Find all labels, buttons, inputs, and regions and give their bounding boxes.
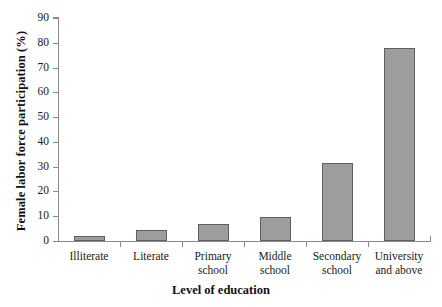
y-axis-tick xyxy=(53,241,58,242)
x-axis-tick xyxy=(306,242,307,247)
y-axis-tick xyxy=(53,68,58,69)
y-axis-line xyxy=(58,17,59,242)
y-axis-tick-label: 30 xyxy=(9,161,49,173)
y-axis-tick xyxy=(53,167,58,168)
bar xyxy=(260,217,291,241)
y-axis-tick-label: 20 xyxy=(9,185,49,197)
y-axis-tick-label: 80 xyxy=(9,37,49,49)
y-axis-tick xyxy=(53,18,58,19)
y-axis-tick-label: 0 xyxy=(9,235,49,247)
y-axis-tick xyxy=(53,142,58,143)
x-axis-tick xyxy=(120,242,121,247)
y-axis-tick xyxy=(53,191,58,192)
category-label-line: University xyxy=(356,250,442,264)
bar xyxy=(136,230,167,241)
y-axis-tick-label: 50 xyxy=(9,111,49,123)
y-axis-tick xyxy=(53,92,58,93)
y-axis-tick xyxy=(53,43,58,44)
x-axis-tick xyxy=(182,242,183,247)
category-label-line: and above xyxy=(356,264,442,278)
bar xyxy=(74,236,105,241)
x-axis-tick xyxy=(244,242,245,247)
y-axis-tick-label: 60 xyxy=(9,86,49,98)
y-axis-tick-label: 90 xyxy=(9,12,49,24)
x-axis-end-cap xyxy=(430,236,431,242)
y-axis-tick xyxy=(53,117,58,118)
bar xyxy=(322,163,353,241)
x-axis-title: Level of education xyxy=(0,283,442,298)
bar-chart: Female labor force participation (%) 010… xyxy=(0,0,442,307)
bar xyxy=(384,48,415,241)
y-axis-tick-label: 10 xyxy=(9,210,49,222)
y-axis-tick-label: 40 xyxy=(9,136,49,148)
x-axis-tick xyxy=(368,242,369,247)
y-axis-tick xyxy=(53,216,58,217)
bar xyxy=(198,224,229,241)
y-axis-tick-label: 70 xyxy=(9,62,49,74)
x-axis-category-label: Universityand above xyxy=(356,250,442,277)
